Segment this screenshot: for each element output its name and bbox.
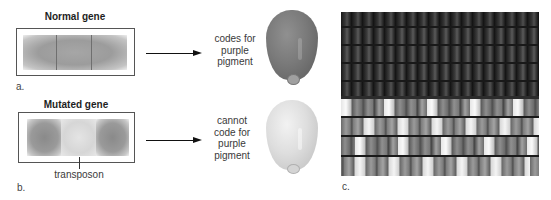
exon-right [96, 119, 129, 156]
kernel-row [341, 118, 539, 135]
normal-gene-bar [23, 35, 127, 70]
normal-gene-title: Normal gene [15, 11, 135, 22]
caption-cannot-code: cannot code for purple pigment [197, 115, 267, 161]
arrow-b [146, 137, 202, 144]
kernel-row [341, 137, 539, 155]
purple-kernel-tip [287, 74, 300, 85]
transposon-label: transposon [48, 169, 110, 180]
transposon-pointer-line [79, 157, 80, 169]
panel-label-a: a. [16, 81, 24, 92]
kernel-row [341, 99, 539, 116]
mutated-gene-box [18, 112, 135, 163]
mutated-gene-title: Mutated gene [16, 99, 136, 110]
white-kernel-tip [287, 164, 300, 174]
white-kernel-body [266, 100, 318, 170]
kernel-row [341, 82, 539, 96]
kernel-row [341, 64, 539, 80]
caption-codes-purple: codes for purple pigment [200, 33, 270, 68]
white-kernel [266, 100, 318, 176]
kernel-row [341, 157, 539, 176]
transposon-segment [61, 119, 97, 156]
corn-ear-photo [341, 12, 539, 176]
panel-label-c: c. [342, 181, 350, 192]
exon-left [27, 119, 62, 156]
purple-kernel [266, 10, 318, 86]
arrow-a [146, 50, 202, 57]
kernel-row [341, 46, 539, 62]
normal-gene-box [16, 28, 135, 76]
kernel-row [341, 12, 539, 26]
purple-kernel-body [266, 10, 318, 80]
panel-label-b: b. [17, 182, 25, 193]
exon-divider-1 [56, 35, 57, 70]
kernel-row [341, 28, 539, 44]
exon-divider-2 [91, 35, 92, 70]
